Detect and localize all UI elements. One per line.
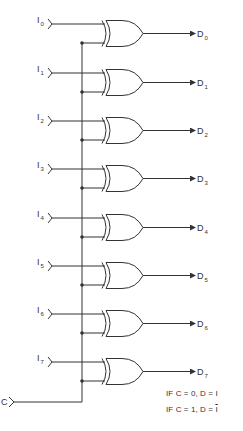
input-chevron-icon xyxy=(48,164,52,174)
gate-row-6: I6D6 xyxy=(37,305,209,337)
condition-text: IF C = 1, D = xyxy=(166,405,215,414)
output-label-subscript: 7 xyxy=(205,373,209,379)
control-input-label: C xyxy=(1,397,8,407)
input-label: I0 xyxy=(37,15,45,27)
output-label: D3 xyxy=(197,174,209,186)
xor-gate-icon xyxy=(106,70,143,96)
condition-line-0: IF C = 0, D = I xyxy=(166,389,218,398)
xor-gate-icon xyxy=(106,118,143,144)
gate-row-3: I3D3 xyxy=(37,160,209,192)
input-label: I5 xyxy=(37,257,45,269)
input-label-subscript: 4 xyxy=(41,215,45,221)
output-label: D6 xyxy=(197,319,209,331)
condition-value: I xyxy=(215,389,217,398)
input-chevron-icon xyxy=(48,309,52,319)
xor-complementer-diagram: I0D0I1D1I2D2I3D3I4D4I5D5I6D6I7D7 C xyxy=(0,0,243,431)
input-label: I2 xyxy=(37,112,45,124)
gate-row-5: I5D5 xyxy=(37,257,209,289)
input-chevron-icon xyxy=(48,68,52,78)
input-chevron-icon xyxy=(48,261,52,271)
xor-gate-icon xyxy=(106,263,143,289)
xor-gate-icon xyxy=(106,359,143,385)
output-label: D1 xyxy=(197,78,209,90)
xor-gate-icon xyxy=(106,21,143,47)
xor-gate-icon xyxy=(106,166,143,192)
condition-value-inverted: I xyxy=(215,405,217,414)
gate-row-1: I1D1 xyxy=(37,64,209,96)
control-input-chevron-icon xyxy=(9,397,14,407)
input-chevron-icon xyxy=(48,116,52,126)
input-label: I6 xyxy=(37,305,45,317)
input-label: I1 xyxy=(37,64,45,76)
input-label-subscript: 7 xyxy=(41,359,45,365)
condition-line-1: IF C = 1, D = I xyxy=(166,405,218,414)
input-label-subscript: 6 xyxy=(41,311,45,317)
output-label-subscript: 4 xyxy=(205,229,209,235)
output-label: D0 xyxy=(197,29,209,41)
input-chevron-icon xyxy=(48,213,52,223)
output-label-subscript: 2 xyxy=(205,132,209,138)
xor-gate-icon xyxy=(106,215,143,241)
output-label: D7 xyxy=(197,367,209,379)
output-label: D5 xyxy=(197,271,209,283)
gate-row-4: I4D4 xyxy=(37,209,209,241)
input-label: I3 xyxy=(37,160,45,172)
gate-row-7: I7D7 xyxy=(37,353,209,385)
input-label: I4 xyxy=(37,209,45,221)
output-label-subscript: 1 xyxy=(205,84,209,90)
gate-row-0: I0D0 xyxy=(37,15,209,47)
input-label-subscript: 3 xyxy=(41,166,45,172)
output-label-subscript: 5 xyxy=(205,277,209,283)
output-label: D4 xyxy=(197,223,209,235)
condition-text: IF C = 0, D = xyxy=(166,389,215,398)
output-label: D2 xyxy=(197,126,209,138)
input-chevron-icon xyxy=(48,19,52,29)
output-label-subscript: 3 xyxy=(205,180,209,186)
output-label-subscript: 6 xyxy=(205,325,209,331)
control-bus xyxy=(9,43,82,407)
input-label-subscript: 1 xyxy=(41,70,45,76)
gate-row-2: I2D2 xyxy=(37,112,209,144)
input-label-subscript: 2 xyxy=(41,118,45,124)
input-chevron-icon xyxy=(48,357,52,367)
input-label-subscript: 5 xyxy=(41,263,45,269)
input-label-subscript: 0 xyxy=(41,21,45,27)
input-label: I7 xyxy=(37,353,45,365)
output-label-subscript: 0 xyxy=(205,35,209,41)
xor-gate-icon xyxy=(106,311,143,337)
